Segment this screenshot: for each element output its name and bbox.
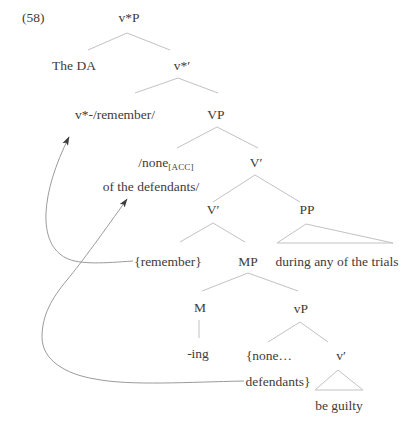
triangle-PP [277, 224, 393, 243]
leaf-ing: -ing [187, 347, 209, 361]
node-PP: PP [299, 203, 314, 217]
node-none-trace-line2: defendants} [246, 375, 311, 389]
node-none-line2: of the defendants/ [103, 180, 200, 194]
node-the-da: The DA [52, 59, 96, 73]
leaf-be-guilty: be guilty [315, 399, 363, 413]
node-M: M [194, 301, 206, 315]
node-V-bar-lower: V′ [207, 203, 220, 217]
node-V-bar-upper: V′ [250, 156, 263, 170]
node-vstar-bar: v*′ [174, 59, 190, 73]
branch-V-bar-lower [180, 223, 245, 242]
leaf-pp-yield: during any of the trials [276, 255, 399, 269]
node-VP: VP [207, 108, 224, 122]
syntax-tree-figure: (58) v*P The DA v*′ v*-/remember/ VP /no… [0, 0, 406, 427]
branch-V-bar-upper [213, 175, 300, 202]
node-none-acc-main: /none [138, 155, 168, 170]
node-remember-trace: {remember} [134, 255, 202, 269]
node-MP: MP [238, 255, 258, 269]
example-number: (58) [22, 11, 45, 25]
node-none-acc: /none[ACC] [138, 156, 194, 171]
node-none-acc-subscript: [ACC] [168, 162, 194, 172]
node-v-bar-low: v′ [336, 349, 346, 363]
movement-arrow-none-defendants [42, 199, 244, 383]
branch-MP [202, 273, 298, 291]
node-none-trace-line1: {none… [246, 349, 292, 363]
branch-vP [268, 322, 328, 342]
node-vstar-head: v*-/remember/ [75, 108, 155, 122]
branch-VP [177, 127, 258, 148]
movement-arrow-remember [46, 137, 133, 263]
node-vstarP: v*P [118, 11, 139, 25]
node-vP: vP [294, 302, 308, 316]
branch-vstarP [88, 33, 170, 50]
triangle-v-bar [315, 370, 363, 390]
branch-vstar-bar [135, 78, 218, 93]
